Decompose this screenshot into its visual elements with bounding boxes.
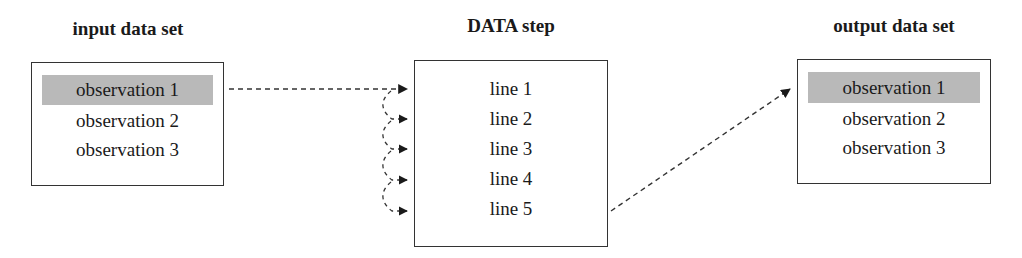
arrow-line-2-to-line-3 (383, 121, 407, 149)
arrow-line-1-to-line-2 (383, 91, 407, 119)
arrow-line-5-to-output (611, 89, 790, 211)
arrow-line-4-to-line-5 (383, 182, 407, 211)
arrow-line-3-to-line-4 (383, 151, 407, 180)
connector-layer (0, 0, 1022, 258)
